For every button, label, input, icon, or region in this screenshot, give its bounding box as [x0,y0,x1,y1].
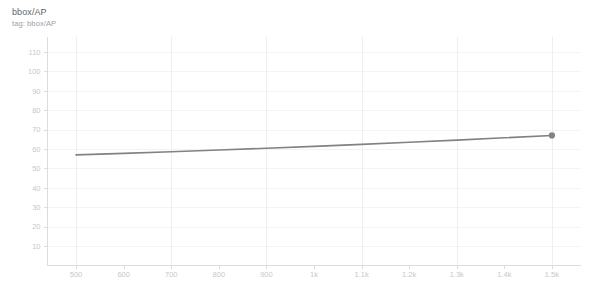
y-axis-tick-label: 10 [32,242,40,251]
x-axis-tick-label: 1k [310,270,318,279]
y-axis-tick-labels: 102030405060708090100110 [28,48,41,251]
x-axis-tick-label: 900 [260,270,273,279]
vertical-gridlines [77,37,553,266]
y-axis-tick-label: 70 [32,125,40,134]
x-axis-tick-labels: 5006007008009001k1.1k1.2k1.3k1.4k1.5k [70,270,559,279]
y-axis-tick-label: 90 [32,87,40,96]
x-axis-tick-label: 1.1k [354,270,368,279]
x-axis-tick-label: 800 [213,270,226,279]
horizontal-gridlines [48,53,581,247]
scalar-chart-card: bbox/AP tag: bbox/AP 1020304050607080901… [0,0,607,299]
y-axis-tick-marks [44,53,48,247]
y-axis-tick-label: 20 [32,222,40,231]
y-axis-tick-label: 30 [32,203,40,212]
y-axis-tick-label: 50 [32,164,40,173]
series-line-bbox-ap[interactable] [76,135,552,154]
series-endpoint-marker[interactable] [549,132,555,138]
x-axis-tick-label: 1.4k [497,270,511,279]
y-axis-tick-label: 80 [32,106,40,115]
x-axis-tick-marks [77,266,553,270]
y-axis-tick-label: 60 [32,145,40,154]
y-axis-tick-label: 100 [28,67,41,76]
chart-plot-area[interactable]: 102030405060708090100110 500600700800900… [0,0,607,299]
x-axis-tick-label: 1.3k [450,270,464,279]
y-axis-tick-label: 40 [32,184,40,193]
data-series-group[interactable] [76,132,555,155]
x-axis-tick-label: 600 [117,270,130,279]
x-axis-tick-label: 1.2k [402,270,416,279]
chart-axes [48,37,581,266]
y-axis-tick-label: 110 [29,48,41,57]
x-axis-tick-label: 500 [70,270,83,279]
x-axis-tick-label: 1.5k [545,270,559,279]
x-axis-tick-label: 700 [165,270,178,279]
